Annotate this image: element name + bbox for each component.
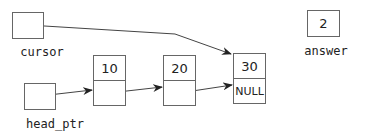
node-data: 20	[164, 56, 195, 81]
node-link-null: NULL	[234, 79, 265, 104]
head-ptr-pointer-box	[24, 83, 56, 110]
cursor-pointer-box	[12, 12, 44, 39]
node-link	[94, 81, 125, 106]
list-node-10: 10	[93, 55, 126, 106]
node-data: 30	[234, 54, 265, 79]
head-ptr-label: head_ptr	[26, 117, 84, 131]
list-node-20: 20	[163, 55, 196, 106]
node-link	[164, 81, 195, 106]
node-data: 10	[94, 56, 125, 81]
answer-label: answer	[304, 44, 347, 58]
list-node-30: 30 NULL	[233, 53, 266, 104]
cursor-label: cursor	[20, 45, 63, 59]
answer-value-box: 2	[307, 10, 340, 37]
